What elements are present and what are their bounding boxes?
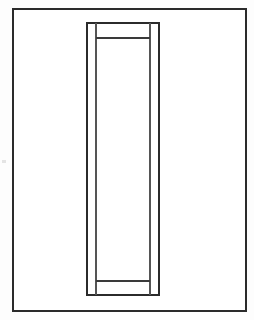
inner-page-field	[13, 9, 246, 311]
figure-root	[0, 0, 254, 320]
line-drawing-canvas	[0, 0, 254, 320]
